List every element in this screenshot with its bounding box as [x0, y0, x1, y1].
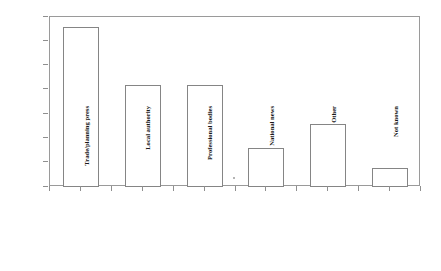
x-axis-category-label: Not known [392, 106, 399, 196]
y-tick-mark [43, 161, 48, 162]
x-tick-mark [420, 186, 421, 191]
y-tick-mark [43, 113, 48, 114]
x-axis-category-label: Other [330, 106, 337, 196]
x-tick-mark [80, 186, 81, 191]
x-tick-mark [142, 186, 143, 191]
x-tick-mark [265, 186, 266, 191]
x-axis-category-label: Professional bodies [206, 106, 213, 196]
x-tick-mark [49, 186, 50, 191]
bar-chart-figure: % of respondents 05101520253035 Trade/pl… [0, 0, 441, 271]
bar [125, 85, 161, 187]
y-tick-mark [43, 88, 48, 89]
x-axis-category-label: Trade/planning press [83, 106, 90, 196]
x-axis-category-label: National news [268, 106, 275, 196]
x-tick-mark [296, 186, 297, 191]
bar [187, 85, 223, 187]
bar [372, 168, 408, 187]
x-tick-mark [389, 186, 390, 191]
x-tick-mark [327, 186, 328, 191]
y-tick-mark [43, 16, 48, 17]
x-tick-mark [235, 186, 236, 191]
x-tick-mark [358, 186, 359, 191]
x-axis-category-label: Local authority [144, 106, 151, 196]
scan-artifact-dot [233, 177, 235, 179]
bar [248, 148, 284, 187]
x-tick-mark [173, 186, 174, 191]
bar [63, 27, 99, 187]
y-tick-mark [43, 40, 48, 41]
plot-area [49, 16, 420, 186]
x-tick-mark [111, 186, 112, 191]
x-tick-mark [204, 186, 205, 191]
y-tick-mark [43, 64, 48, 65]
y-tick-mark [43, 137, 48, 138]
bar [310, 124, 346, 187]
y-tick-mark [43, 186, 48, 187]
